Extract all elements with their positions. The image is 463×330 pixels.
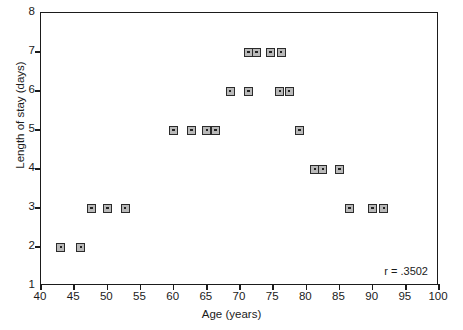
x-axis-tick-label: 50 <box>100 291 113 303</box>
data-point <box>275 87 284 96</box>
x-axis-tick-label: 45 <box>67 291 80 303</box>
x-axis-tick-label: 60 <box>166 291 179 303</box>
x-axis-tick-label: 70 <box>233 291 246 303</box>
x-axis-tick-label: 55 <box>133 291 146 303</box>
data-point <box>226 87 235 96</box>
scatter-plot-figure: Length of stay (days) Age (years) r = .3… <box>0 0 463 330</box>
x-axis-tick-label: 80 <box>299 291 312 303</box>
x-axis-tick-label: 75 <box>266 291 279 303</box>
data-point <box>76 243 85 252</box>
data-point <box>368 204 377 213</box>
data-point <box>379 204 388 213</box>
y-axis-tick-label: 1 <box>21 279 35 291</box>
y-axis-tick-label: 2 <box>21 240 35 252</box>
x-axis-tick-label: 95 <box>398 291 411 303</box>
data-point <box>335 165 344 174</box>
y-axis-tick <box>35 90 41 91</box>
y-axis-tick <box>35 51 41 52</box>
y-axis-tick-label: 3 <box>21 201 35 213</box>
y-axis-tick-label: 6 <box>21 84 35 96</box>
y-axis-tick <box>35 207 41 208</box>
data-point <box>103 204 112 213</box>
data-point <box>345 204 354 213</box>
x-axis-title: Age (years) <box>0 308 463 320</box>
x-axis-tick-label: 90 <box>365 291 378 303</box>
data-point <box>169 126 178 135</box>
data-point <box>56 243 65 252</box>
data-point <box>187 126 196 135</box>
x-axis-tick-label: 85 <box>332 291 345 303</box>
y-axis-tick-label: 5 <box>21 123 35 135</box>
data-point <box>318 165 327 174</box>
x-axis-tick-label: 40 <box>34 291 47 303</box>
data-point <box>266 48 275 57</box>
plot-area: r = .3502 <box>40 12 438 285</box>
data-point <box>211 126 220 135</box>
data-point <box>252 48 261 57</box>
data-point <box>121 204 130 213</box>
y-axis-tick <box>35 129 41 130</box>
correlation-annotation: r = .3502 <box>384 265 428 277</box>
data-point <box>277 48 286 57</box>
data-point <box>87 204 96 213</box>
y-axis-tick <box>35 246 41 247</box>
x-axis-tick-label: 100 <box>428 291 447 303</box>
data-point <box>285 87 294 96</box>
data-point <box>244 87 253 96</box>
y-axis-tick-label: 4 <box>21 162 35 174</box>
y-axis-tick-label: 7 <box>21 45 35 57</box>
data-point <box>295 126 304 135</box>
data-points-layer <box>41 13 437 284</box>
y-axis-tick <box>35 168 41 169</box>
x-axis-tick-label: 65 <box>199 291 212 303</box>
y-axis-tick-label: 8 <box>21 6 35 18</box>
